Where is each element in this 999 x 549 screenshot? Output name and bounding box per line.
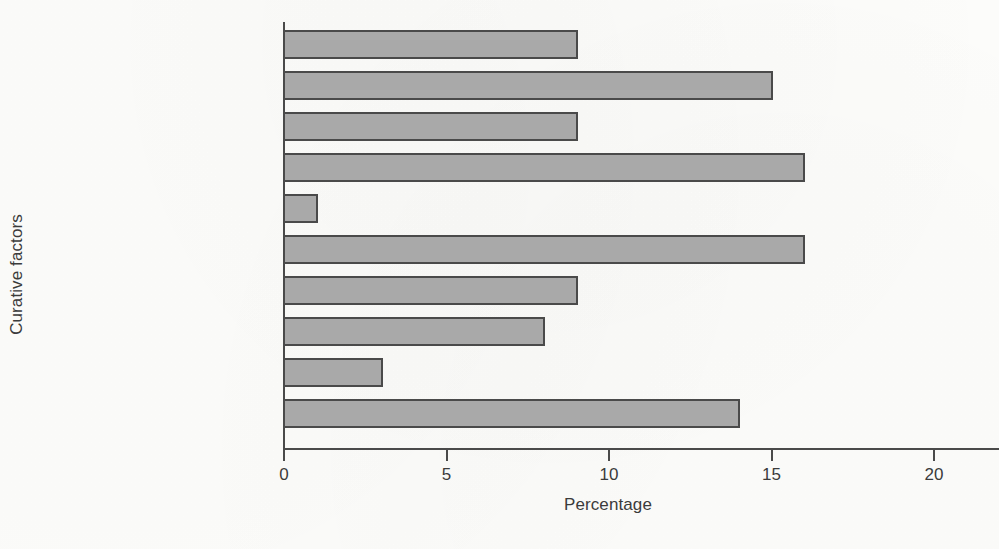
x-axis-tick-label: 0 (254, 465, 314, 485)
y-axis-title: Curative factors (0, 0, 34, 549)
x-axis-tick (933, 450, 935, 461)
bar (285, 194, 318, 223)
x-axis-tick (771, 450, 773, 461)
bar (285, 358, 383, 387)
x-axis-tick-label: 10 (579, 465, 639, 485)
bar-chart-figure: Curative factors HopeUniversalityVicario… (0, 0, 999, 549)
x-axis-line (283, 448, 999, 450)
bar (285, 235, 805, 264)
bar (285, 317, 545, 346)
bar (285, 112, 578, 141)
bar (285, 276, 578, 305)
x-axis-tick (283, 450, 285, 461)
bar (285, 30, 578, 59)
x-axis-tick-label: 20 (904, 465, 964, 485)
x-axis-tick-label: 15 (742, 465, 802, 485)
x-axis-tick (608, 450, 610, 461)
bar (285, 399, 740, 428)
bar (285, 153, 805, 182)
x-axis-tick (446, 450, 448, 461)
x-axis-tick-label: 5 (417, 465, 477, 485)
bar (285, 71, 773, 100)
x-axis-title: Percentage (283, 495, 933, 515)
plot-area: HopeUniversalityVicarious learningInterp… (283, 22, 999, 450)
